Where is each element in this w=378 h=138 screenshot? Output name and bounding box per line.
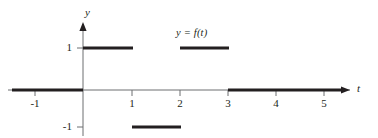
x-tick-label-5: 5	[316, 98, 332, 109]
y-tick-label--1: -1	[54, 121, 72, 132]
function-graph-figure: -1 1 2 3 4 5 1 -1 y t y = f(t)	[0, 0, 378, 138]
curve-label: y = f(t)	[176, 27, 207, 38]
x-tick-label-4: 4	[268, 98, 284, 109]
y-axis-label: y	[85, 6, 90, 18]
x-tick-label-3: 3	[220, 98, 236, 109]
x-tick-label-1: 1	[124, 98, 140, 109]
y-tick-label-1: 1	[58, 42, 72, 53]
x-axis-label: t	[357, 82, 360, 94]
x-tick-label-2: 2	[172, 98, 188, 109]
graph-canvas	[0, 0, 378, 138]
y-axis-arrowhead	[79, 22, 86, 31]
x-tick-label--1: -1	[27, 98, 43, 109]
